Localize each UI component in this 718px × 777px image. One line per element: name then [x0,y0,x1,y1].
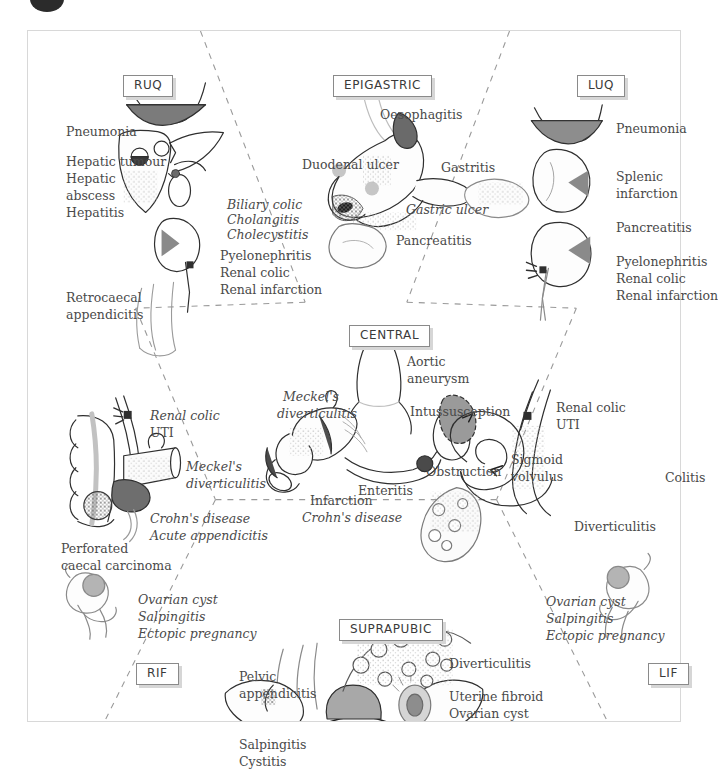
region-chip-lif[interactable]: LIF [648,663,689,685]
diagnosis-label: Pyelonephritis [220,247,311,264]
diagnosis-label: aneurysm [407,370,469,387]
diagnosis-label: Crohn's disease [302,509,402,526]
diagnosis-label: Pancreatitis [396,232,472,249]
diagnosis-label: Uterine fibroid [449,688,543,705]
diagnosis-label: Infarction [310,492,373,509]
region-chip-central[interactable]: CENTRAL [349,325,430,347]
art-ruq-gallbladder [169,161,206,206]
art-rif-adnexa [65,563,116,639]
diagnosis-label: Renal colic [220,264,290,281]
diagnosis-label: Intussusception [410,403,510,420]
diagnosis-label: Aortic [407,353,446,370]
art-ruq-kidney [155,218,200,312]
diagnosis-label: Diverticulitis [574,518,656,535]
diagnosis-label: Renal infarction [616,287,718,304]
diagnosis-label: Gastritis [441,159,495,176]
diagnosis-label: Ectopic pregnancy [138,625,257,642]
diagnosis-label: Hepatic [66,170,116,187]
diagnosis-label: Diverticulitis [449,655,531,672]
art-luq-diaphragm [531,105,602,144]
diagnosis-label: Hepatitis [66,204,124,221]
diagnosis-label: Acute appendicitis [150,527,268,544]
diagram-frame: RUQEPIGASTRICLUQCENTRALRIFSUPRAPUBICLIF … [27,30,681,722]
diagnosis-label: caecal carcinoma [61,557,172,574]
region-chip-ruq[interactable]: RUQ [123,75,173,97]
diagnosis-label: Crohn's disease [150,510,250,527]
diagnosis-label: Pneumonia [616,120,687,137]
diagnosis-label: Salpingitis [239,736,307,753]
region-chip-suprapubic[interactable]: SUPRAPUBIC [339,619,443,641]
diagnosis-label: Renal colic [150,407,220,424]
diagnosis-label: Pneumonia [66,123,137,140]
diagnosis-label: Splenic [616,168,663,185]
diagnosis-label: Ovarian cyst [449,705,529,722]
diagnosis-label: Meckel's [283,388,339,405]
diagnosis-label: diverticulitis [277,405,357,422]
diagnosis-label: Duodenal ulcer [302,156,399,173]
top-marker-bullet [30,0,64,12]
diagnosis-label: Gastric ulcer [406,201,488,218]
diagnosis-label: Cystitis [239,753,287,770]
diagnosis-label: Meckel's [186,458,242,475]
diagnosis-label: volvulus [511,468,563,485]
diagnosis-label: Renal colic [616,270,686,287]
diagnosis-label: infarction [616,185,678,202]
art-ruq-liver [119,130,224,212]
diagnosis-label: Pyelonephritis [616,253,707,270]
diagnosis-label: Sigmoid [511,451,563,468]
diagnosis-label: diverticulitis [186,475,266,492]
diagnosis-label: Pelvic [239,668,276,685]
diagnosis-label: UTI [150,424,174,441]
diagnosis-label: Renal colic [556,399,626,416]
diagnosis-label: UTI [556,416,580,433]
diagnosis-label: Salpingitis [546,610,614,627]
diagnosis-label: Pancreatitis [616,219,692,236]
diagnosis-label: appendicitis [66,306,143,323]
diagnosis-label: Retrocaecal [66,289,142,306]
region-chip-luq[interactable]: LUQ [577,75,625,97]
region-chip-rif[interactable]: RIF [136,663,179,685]
diagnosis-label: Oesophagitis [380,106,463,123]
art-luq-spleen [533,149,590,212]
diagnosis-label: Perforated [61,540,128,557]
diagnosis-label: Hepatic tumour [66,153,166,170]
diagnosis-label: Obstruction [426,463,501,480]
art-luq-kidney [526,222,590,320]
diagnosis-label: Ovarian cyst [546,593,626,610]
diagnosis-label: Cholecystitis [227,226,308,243]
diagnosis-label: Ovarian cyst [138,591,218,608]
diagnosis-label: Salpingitis [138,608,206,625]
diagnosis-label: Ectopic pregnancy [546,627,665,644]
diagnosis-label: Colitis [665,469,706,486]
diagnosis-label: Renal infarction [220,281,322,298]
region-chip-epigastric[interactable]: EPIGASTRIC [333,75,432,97]
diagnosis-label: abscess [66,187,115,204]
diagnosis-label: appendicitis [239,685,316,702]
